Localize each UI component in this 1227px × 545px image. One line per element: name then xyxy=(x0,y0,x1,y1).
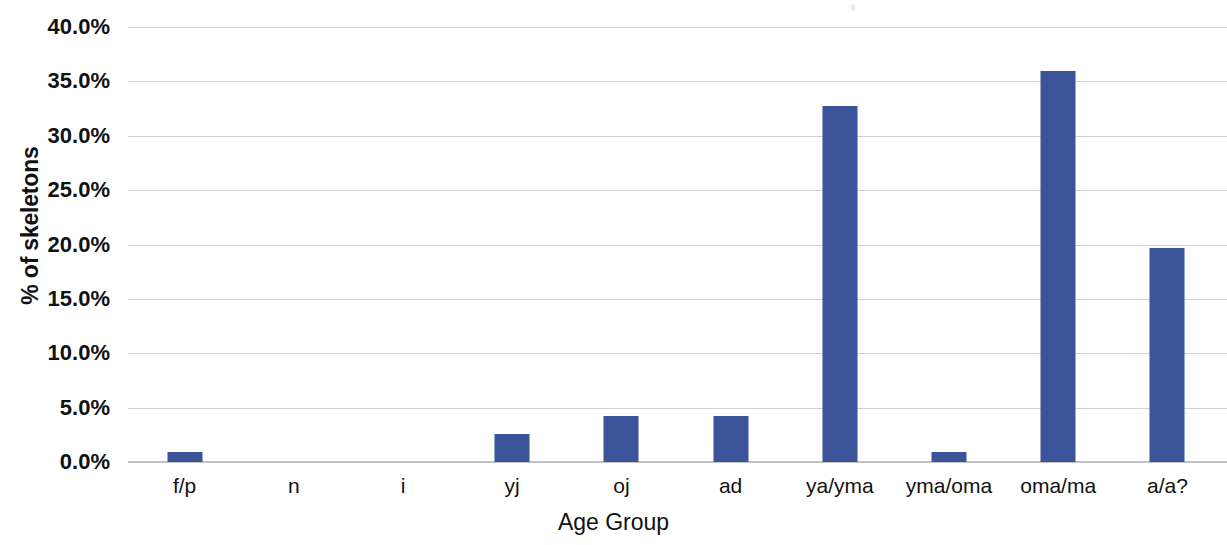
y-tick-label: 5.0% xyxy=(0,395,110,421)
bar[interactable] xyxy=(495,434,530,462)
bar-slot xyxy=(785,27,894,462)
bar-slot xyxy=(567,27,676,462)
y-tick-label: 20.0% xyxy=(0,232,110,258)
bar[interactable] xyxy=(1041,71,1076,463)
y-tick-label: 15.0% xyxy=(0,286,110,312)
x-tick-label: oj xyxy=(613,474,629,498)
y-tick-label: 30.0% xyxy=(0,123,110,149)
x-tick-label: a/a? xyxy=(1147,474,1188,498)
x-tick-label: yma/oma xyxy=(906,474,992,498)
x-tick-label: ad xyxy=(719,474,742,498)
x-tick-label: i xyxy=(401,474,406,498)
bar[interactable] xyxy=(604,416,639,462)
y-tick-label: 25.0% xyxy=(0,177,110,203)
bar-slot xyxy=(458,27,567,462)
bar-slot xyxy=(894,27,1003,462)
x-tick-label: n xyxy=(288,474,300,498)
x-tick-label: oma/ma xyxy=(1020,474,1096,498)
plot-area xyxy=(130,27,1222,462)
x-tick-label: ya/yma xyxy=(806,474,874,498)
bar[interactable] xyxy=(1150,248,1185,462)
x-axis-title: Age Group xyxy=(0,509,1227,536)
y-tick-label: 35.0% xyxy=(0,68,110,94)
y-tick-label: 0.0% xyxy=(0,449,110,475)
bar-slot xyxy=(130,27,239,462)
x-tick-label: f/p xyxy=(173,474,196,498)
y-axis-title: % of skeletons xyxy=(17,76,44,376)
bar[interactable] xyxy=(931,452,966,462)
bar-slot xyxy=(1113,27,1222,462)
bar-chart: % of skeletons 0.0%5.0%10.0%15.0%20.0%25… xyxy=(0,0,1227,545)
bar[interactable] xyxy=(713,416,748,462)
scan-artifact xyxy=(851,4,855,11)
bar-slot xyxy=(348,27,457,462)
bar-slot xyxy=(239,27,348,462)
x-tick-label: yj xyxy=(505,474,520,498)
bar-slot xyxy=(676,27,785,462)
bar-slot xyxy=(1004,27,1113,462)
bar[interactable] xyxy=(167,452,202,462)
y-tick-label: 40.0% xyxy=(0,14,110,40)
y-tick-label: 10.0% xyxy=(0,340,110,366)
bar[interactable] xyxy=(822,106,857,462)
